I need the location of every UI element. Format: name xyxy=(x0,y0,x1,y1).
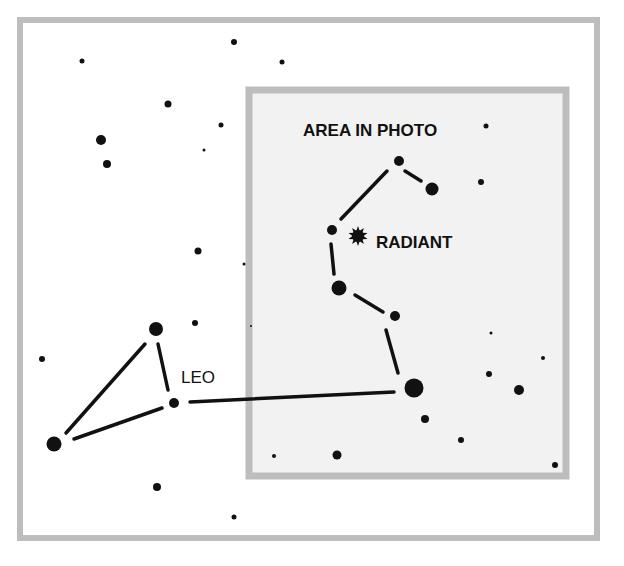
star xyxy=(250,325,252,327)
star xyxy=(405,379,424,398)
star xyxy=(552,462,558,468)
star xyxy=(103,160,111,168)
star xyxy=(39,356,45,362)
star-chart: AREA IN PHOTO RADIANT LEO xyxy=(0,0,624,566)
star xyxy=(541,356,545,360)
star xyxy=(153,483,161,491)
star xyxy=(232,515,237,520)
star xyxy=(332,281,347,296)
star xyxy=(514,385,524,395)
photo-area-box xyxy=(249,90,566,476)
star xyxy=(149,322,163,336)
star xyxy=(80,59,85,64)
leo-label: LEO xyxy=(181,368,215,387)
star xyxy=(243,263,246,266)
star xyxy=(47,437,62,452)
star xyxy=(272,454,276,458)
star xyxy=(231,39,237,45)
radiant-label: RADIANT xyxy=(376,233,453,252)
star xyxy=(426,183,439,196)
star xyxy=(390,311,400,321)
area-in-photo-label: AREA IN PHOTO xyxy=(303,121,437,140)
star xyxy=(280,60,285,65)
star xyxy=(394,156,404,166)
star xyxy=(333,451,342,460)
star xyxy=(421,415,429,423)
star xyxy=(490,332,493,335)
star xyxy=(96,135,106,145)
star xyxy=(192,320,198,326)
star xyxy=(327,225,337,235)
star xyxy=(165,101,172,108)
star xyxy=(219,123,224,128)
star xyxy=(486,371,492,377)
star xyxy=(195,248,202,255)
star xyxy=(203,149,206,152)
star xyxy=(478,179,484,185)
star xyxy=(484,124,489,129)
star xyxy=(458,437,464,443)
star xyxy=(169,398,179,408)
